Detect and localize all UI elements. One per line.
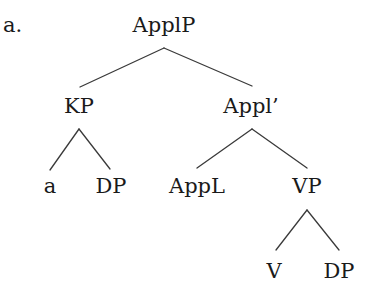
branch-kp-a xyxy=(50,129,79,170)
node-vp-dp: DP xyxy=(324,261,355,282)
branch-applp-kp xyxy=(80,48,164,87)
example-label: a. xyxy=(3,15,22,36)
node-a: a xyxy=(44,176,57,197)
node-kp-dp: DP xyxy=(96,176,127,197)
tree-branches xyxy=(0,0,366,299)
branch-kp-dp xyxy=(79,129,110,169)
syntax-tree-diagram: a. ApplP KP Appl’ a DP AppL VP V DP xyxy=(0,0,366,299)
branch-vp-dp xyxy=(307,210,339,250)
branch-applp-applbar xyxy=(164,48,252,86)
node-vp: VP xyxy=(292,176,321,197)
node-applp: ApplP xyxy=(133,15,196,36)
node-kp: KP xyxy=(64,96,94,117)
branch-applbar-vp xyxy=(252,129,307,168)
branch-applbar-appl xyxy=(197,129,252,168)
node-v: V xyxy=(266,261,281,282)
node-appl-head: AppL xyxy=(169,176,225,197)
branch-vp-v xyxy=(276,210,307,250)
node-appl-bar: Appl’ xyxy=(223,96,278,117)
